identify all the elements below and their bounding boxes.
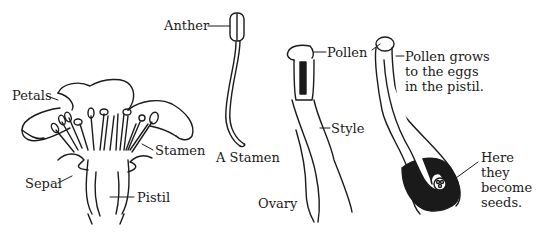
label-pistil: Pistil: [137, 190, 170, 205]
sepal-right: [128, 156, 152, 172]
pollen-grain: [376, 37, 394, 51]
label-sepal: Sepal: [25, 176, 62, 191]
filament: [226, 41, 244, 146]
label-pollen-grows: Pollen grows to the eggs in the pistil.: [405, 49, 490, 94]
stamen-drawing: [208, 13, 245, 147]
label-here-seeds: Here they become seeds.: [481, 150, 532, 210]
stigma: [287, 45, 313, 60]
petal-back: [58, 79, 134, 110]
caption-a-stamen: A Stamen: [216, 150, 280, 165]
sepal-left: [58, 154, 88, 170]
label-stamen: Stamen: [155, 143, 205, 158]
pistil-base: [86, 160, 92, 224]
petal-right: [128, 101, 193, 140]
label-petals: Petals: [12, 88, 52, 103]
label-style: Style: [331, 121, 364, 136]
label-ovary: Ovary: [258, 196, 297, 211]
label-anther: Anther: [164, 18, 209, 33]
label-pollen: Pollen: [327, 45, 367, 60]
